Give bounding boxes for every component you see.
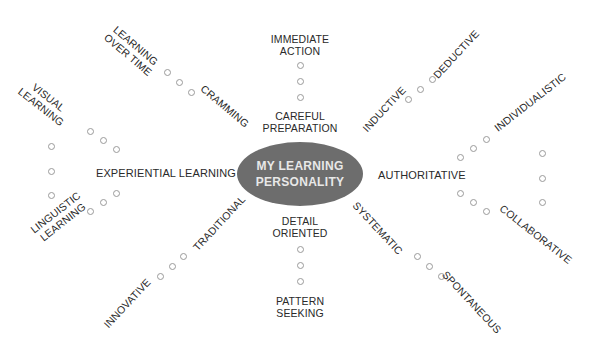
label-spontaneous: SPONTANEOUS bbox=[438, 266, 507, 339]
scale-dot[interactable] bbox=[297, 278, 304, 285]
label-line: IMMEDIATE bbox=[266, 33, 334, 45]
scale-dot[interactable] bbox=[414, 253, 421, 260]
scale-dot[interactable] bbox=[297, 62, 304, 69]
label-inductive: INDUCTIVE bbox=[358, 82, 409, 136]
scale-dot[interactable] bbox=[457, 154, 464, 161]
scale-dot[interactable] bbox=[426, 263, 433, 270]
scale-dot[interactable] bbox=[297, 78, 304, 85]
center-label-line2: PERSONALITY bbox=[256, 174, 345, 190]
scale-dot[interactable] bbox=[87, 128, 94, 135]
label-careful-preparation: CAREFUL PREPARATION bbox=[256, 110, 344, 134]
label-immediate-action: IMMEDIATE ACTION bbox=[266, 33, 334, 57]
label-line: SEEKING bbox=[266, 307, 334, 319]
label-visual-learning: VISUAL LEARNING bbox=[10, 71, 80, 133]
label-learning-over-time: LEARNING OVER TIME bbox=[94, 15, 171, 85]
scale-dot[interactable] bbox=[169, 263, 176, 270]
label-pattern-seeking: PATTERN SEEKING bbox=[266, 295, 334, 319]
scale-dot[interactable] bbox=[297, 262, 304, 269]
label-line: PATTERN bbox=[266, 295, 334, 307]
scale-dot[interactable] bbox=[539, 199, 546, 206]
center-label-line1: MY LEARNING bbox=[256, 158, 343, 174]
scale-dot[interactable] bbox=[483, 208, 490, 215]
scale-dot[interactable] bbox=[100, 199, 107, 206]
scale-dot[interactable] bbox=[470, 145, 477, 152]
label-linguistic-learning: LINGUISTIC LEARNING bbox=[22, 185, 95, 249]
label-cramming: CRAMMING bbox=[194, 79, 255, 133]
scale-dot[interactable] bbox=[457, 190, 464, 197]
label-line: ORIENTED bbox=[266, 227, 334, 239]
learning-personality-diagram: MY LEARNING PERSONALITY IMMEDIATE ACTION… bbox=[0, 0, 599, 362]
scale-dot[interactable] bbox=[539, 150, 546, 157]
scale-dot[interactable] bbox=[297, 246, 304, 253]
center-ellipse: MY LEARNING PERSONALITY bbox=[237, 142, 363, 206]
scale-dot[interactable] bbox=[297, 94, 304, 101]
label-collaborative: COLLABORATIVE bbox=[494, 200, 577, 269]
label-authoritative: AUTHORITATIVE bbox=[378, 169, 464, 181]
scale-dot[interactable] bbox=[405, 96, 412, 103]
label-detail-oriented: DETAIL ORIENTED bbox=[266, 215, 334, 239]
label-deductive: DEDUCTIVE bbox=[428, 25, 483, 83]
label-line: ACTION bbox=[266, 45, 334, 57]
label-traditional: TRADITIONAL bbox=[188, 190, 250, 255]
label-line: DETAIL bbox=[266, 215, 334, 227]
label-line: PREPARATION bbox=[256, 122, 344, 134]
label-systematic: SYSTEMATIC bbox=[348, 196, 409, 260]
scale-dot[interactable] bbox=[180, 253, 187, 260]
scale-dot[interactable] bbox=[188, 89, 195, 96]
scale-dot[interactable] bbox=[539, 175, 546, 182]
scale-dot[interactable] bbox=[483, 136, 490, 143]
scale-dot[interactable] bbox=[417, 86, 424, 93]
scale-dot[interactable] bbox=[157, 273, 164, 280]
label-experiential-learning: EXPERIENTIAL LEARNING bbox=[96, 167, 232, 179]
scale-dot[interactable] bbox=[164, 69, 171, 76]
label-innovative: INNOVATIVE bbox=[99, 273, 156, 332]
scale-dot[interactable] bbox=[100, 137, 107, 144]
scale-dot[interactable] bbox=[176, 79, 183, 86]
label-line: CAREFUL bbox=[256, 110, 344, 122]
scale-dot[interactable] bbox=[113, 190, 120, 197]
scale-dot[interactable] bbox=[470, 199, 477, 206]
scale-dot[interactable] bbox=[48, 192, 55, 199]
label-individualistic: INDIVIDUALISTIC bbox=[487, 66, 573, 137]
scale-dot[interactable] bbox=[113, 146, 120, 153]
scale-dot[interactable] bbox=[48, 143, 55, 150]
scale-dot[interactable] bbox=[48, 168, 55, 175]
